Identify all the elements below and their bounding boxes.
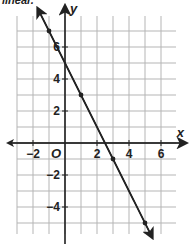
data-point bbox=[47, 29, 52, 34]
x-tick-label: −2 bbox=[26, 147, 40, 161]
y-tick-label: −2 bbox=[46, 168, 60, 182]
coordinate-plane: −2246642−2−4Oxy bbox=[0, 0, 192, 248]
data-point bbox=[143, 221, 148, 226]
data-point bbox=[79, 93, 84, 98]
x-tick-label: 2 bbox=[94, 147, 101, 161]
y-tick-label: −4 bbox=[46, 200, 60, 214]
data-point bbox=[111, 157, 116, 162]
x-tick-label: 6 bbox=[158, 147, 165, 161]
y-tick-label: 2 bbox=[53, 104, 60, 118]
y-axis-label: y bbox=[69, 1, 78, 16]
y-tick-label: 4 bbox=[53, 72, 60, 86]
x-tick-label: 4 bbox=[126, 147, 133, 161]
x-axis-label: x bbox=[176, 125, 185, 140]
origin-label: O bbox=[51, 146, 61, 161]
